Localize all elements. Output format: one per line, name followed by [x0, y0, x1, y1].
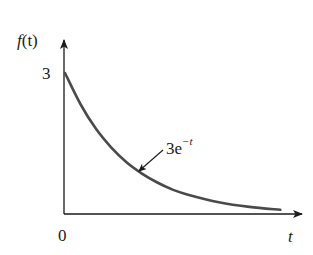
y-axis-label-arg: (t)	[22, 31, 38, 50]
origin-label: 0	[58, 226, 67, 246]
annotation-base: 3e	[166, 139, 182, 158]
curve-annotation: 3e−t	[166, 139, 193, 159]
annotation-arrow	[139, 150, 163, 171]
y-axis-label: f(t)	[17, 31, 38, 51]
exponential-decay-chart	[0, 0, 313, 255]
y-tick-3: 3	[42, 64, 51, 84]
annotation-exponent: −t	[182, 135, 192, 147]
x-axis-label: t	[288, 227, 293, 247]
